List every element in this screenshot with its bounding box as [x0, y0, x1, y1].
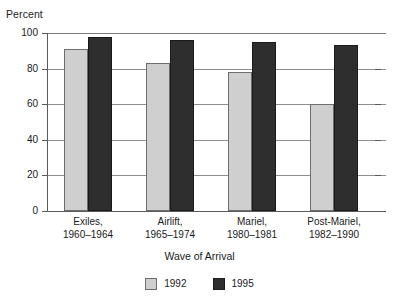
y-tick-label: 20	[8, 170, 38, 180]
bar-1992-0	[64, 49, 88, 211]
legend-label-1992: 1992	[164, 278, 186, 290]
y-tick-label: 100	[8, 28, 38, 38]
category-label-line1: Post-Mariel,	[277, 215, 391, 228]
legend-item-1992: 1992	[145, 278, 186, 290]
legend-item-1995: 1995	[213, 278, 254, 290]
legend-swatch-1995	[213, 278, 225, 290]
category-labels: Exiles,1960–1964Airlift,1965–1974Mariel,…	[47, 215, 375, 249]
bar-1995-3	[334, 45, 358, 211]
bar-1992-3	[310, 104, 334, 211]
bar-1995-0	[88, 37, 112, 211]
bar-chart-figure: Percent 020406080100 Exiles,1960–1964Air…	[0, 0, 399, 306]
chart-legend: 19921995	[0, 278, 399, 290]
category-label-line2: 1982–1990	[277, 228, 391, 241]
bar-1992-2	[228, 72, 252, 211]
y-tick-mark-right	[375, 175, 381, 176]
bar-group	[211, 33, 293, 211]
y-axis-title: Percent	[6, 8, 43, 20]
y-tick-label: 80	[8, 64, 38, 74]
legend-swatch-1992	[145, 278, 157, 290]
bar-1992-1	[146, 63, 170, 211]
bar-group	[293, 33, 375, 211]
y-tick-label: 40	[8, 135, 38, 145]
legend-label-1995: 1995	[232, 278, 254, 290]
category-label: Post-Mariel,1982–1990	[277, 215, 391, 241]
y-tick-mark-right	[375, 69, 381, 70]
y-tick-mark-right	[375, 104, 381, 105]
bar-1995-1	[170, 40, 194, 211]
bar-group	[129, 33, 211, 211]
y-tick-mark-right	[375, 140, 381, 141]
y-tick-label: 60	[8, 99, 38, 109]
x-axis-line	[47, 211, 386, 212]
bar-group	[47, 33, 129, 211]
bars-layer	[47, 33, 375, 211]
bar-1995-2	[252, 42, 276, 211]
x-axis-title: Wave of Arrival	[0, 250, 399, 262]
